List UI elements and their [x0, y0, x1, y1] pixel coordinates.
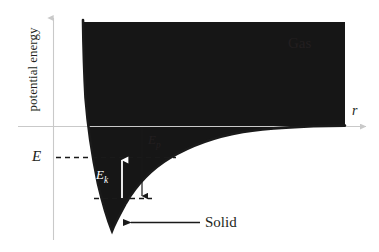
shaded-energy-region — [83, 22, 345, 236]
kinetic-energy-label: Ek — [96, 168, 108, 185]
y-axis-label: potential energy — [26, 10, 39, 130]
potential-energy-figure: potential energy r Gas Solid E Ep Ek — [0, 0, 379, 252]
x-axis-label: r — [352, 104, 357, 118]
kinetic-energy-label-symbol: E — [96, 167, 104, 182]
gas-region-label: Gas — [288, 36, 311, 51]
solid-region-label: Solid — [205, 215, 237, 230]
total-energy-label: E — [32, 149, 41, 164]
potential-energy-plot — [0, 0, 379, 252]
potential-energy-label-subscript: p — [156, 140, 161, 150]
potential-energy-label-symbol: E — [148, 132, 156, 147]
potential-energy-label: Ep — [148, 133, 161, 150]
gas-and-well-fill — [83, 22, 345, 236]
kinetic-energy-label-subscript: k — [104, 175, 108, 185]
